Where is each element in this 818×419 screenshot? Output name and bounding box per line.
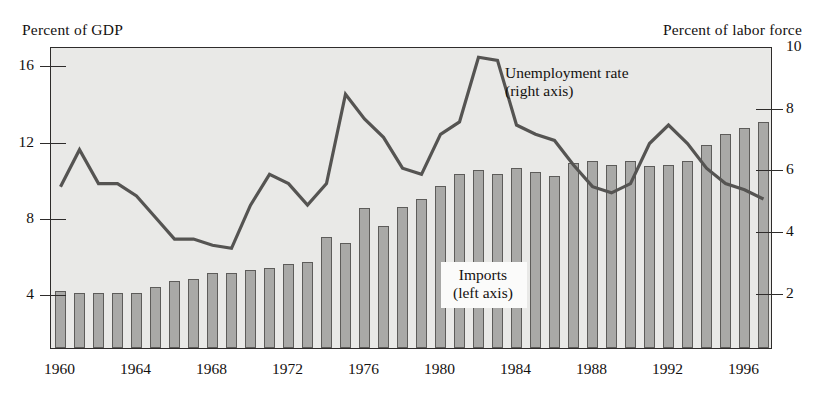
plot-inner: [51, 48, 771, 348]
x-tick-label-1972: 1972: [272, 360, 303, 378]
imports-annotation-line1: Imports: [459, 266, 507, 283]
left-tick-label-8: 8: [8, 209, 34, 227]
line-series-unemployment: [51, 48, 771, 348]
unemployment-annotation-line1: Unemployment rate: [505, 64, 629, 81]
left-tick-label-4: 4: [8, 285, 34, 303]
chart-figure: Percent of GDP Percent of labor force Un…: [0, 0, 818, 419]
left-tick-stub-16: [40, 66, 51, 67]
left-axis-title: Percent of GDP: [22, 21, 123, 39]
unemployment-annotation-line2: (right axis): [505, 82, 629, 100]
imports-annotation: Imports (left axis): [441, 262, 527, 308]
left-tick-16: [50, 66, 66, 67]
x-tick-label-1976: 1976: [348, 360, 379, 378]
unemployment-annotation: Unemployment rate (right axis): [505, 64, 629, 100]
right-tick-stub-2: [772, 294, 783, 295]
left-tick-label-12: 12: [8, 133, 34, 151]
right-tick-label-2: 2: [786, 284, 794, 302]
left-tick-4: [50, 295, 66, 296]
unemployment-line-path: [61, 57, 764, 248]
left-tick-stub-12: [40, 143, 51, 144]
right-tick-6: [756, 170, 772, 171]
right-tick-8: [756, 109, 772, 110]
left-tick-stub-8: [40, 219, 51, 220]
right-tick-label-8: 8: [786, 99, 794, 117]
imports-annotation-line2: (left axis): [453, 284, 513, 302]
right-tick-stub-8: [772, 109, 783, 110]
x-tick-label-1988: 1988: [576, 360, 607, 378]
x-tick-label-1992: 1992: [652, 360, 683, 378]
right-tick-label-10: 10: [786, 37, 802, 55]
right-tick-label-4: 4: [786, 222, 794, 240]
right-tick-label-6: 6: [786, 160, 794, 178]
x-tick-label-1996: 1996: [728, 360, 759, 378]
x-tick-label-1964: 1964: [120, 360, 151, 378]
right-tick-stub-6: [772, 170, 783, 171]
right-tick-stub-4: [772, 232, 783, 233]
x-tick-label-1984: 1984: [500, 360, 531, 378]
x-tick-label-1960: 1960: [44, 360, 75, 378]
right-tick-4: [756, 232, 772, 233]
x-tick-label-1968: 1968: [196, 360, 227, 378]
left-tick-label-16: 16: [8, 56, 34, 74]
left-tick-stub-4: [40, 295, 51, 296]
left-tick-8: [50, 219, 66, 220]
x-tick-label-1980: 1980: [424, 360, 455, 378]
right-tick-2: [756, 294, 772, 295]
plot-area: [50, 47, 772, 349]
left-tick-12: [50, 143, 66, 144]
right-axis-title: Percent of labor force: [663, 21, 802, 39]
